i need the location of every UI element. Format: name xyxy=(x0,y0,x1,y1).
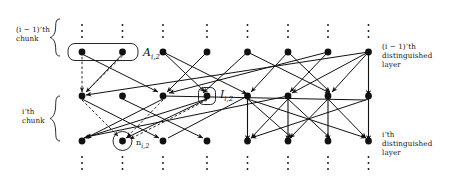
label-right-layer-lower-line2: distinguished xyxy=(382,139,432,148)
node-row-lower xyxy=(79,138,372,145)
graph-node xyxy=(160,93,167,100)
figure-canvas: (i − 1)’th chunk i’th chunk (i − 1)’th d… xyxy=(0,0,458,179)
vertical-dots-top xyxy=(81,24,369,38)
graph-node xyxy=(365,49,372,56)
label-annotation-n-sub: i,2 xyxy=(141,142,149,150)
graph-node xyxy=(244,49,251,56)
graph-node xyxy=(325,138,332,145)
node-row-upper xyxy=(79,49,372,56)
label-right-layer-lower-line1: i’th xyxy=(382,130,395,139)
graph-node xyxy=(79,49,86,56)
graph-node xyxy=(160,49,167,56)
graph-node xyxy=(285,93,292,100)
label-right-layer-lower-line3: layer xyxy=(382,148,401,157)
graph-node xyxy=(325,49,332,56)
label-annotation-a-sub: i,2 xyxy=(151,53,160,61)
graph-node xyxy=(119,138,126,145)
label-annotation-i-sub: i,2 xyxy=(224,95,233,103)
label-left-chunk-lower-line1: i’th xyxy=(22,107,35,116)
label-left-chunk-upper-line2: chunk xyxy=(16,34,39,43)
annotation-box-a xyxy=(68,44,138,61)
label-annotation-a-base: A xyxy=(143,46,151,59)
label-annotation-a: Ai,2 xyxy=(143,46,160,61)
graph-node xyxy=(79,93,86,100)
label-left-chunk-lower: i’th chunk xyxy=(22,107,62,125)
graph-node xyxy=(204,49,211,56)
label-annotation-i: Ii,2 xyxy=(220,88,233,103)
label-right-layer-upper-line3: layer xyxy=(382,60,401,69)
label-right-layer-upper-line2: distinguished xyxy=(382,51,432,60)
graph-node xyxy=(79,138,86,145)
layer-connector-lines xyxy=(248,52,369,141)
label-left-chunk-upper-line1: (i − 1)’th xyxy=(16,25,50,34)
graph-node xyxy=(244,138,251,145)
graph-node xyxy=(285,49,292,56)
label-right-layer-lower: i’th distinguished layer xyxy=(382,130,454,157)
graph-node xyxy=(119,49,126,56)
vertical-dots-bottom xyxy=(81,156,369,170)
label-annotation-n: ni,2 xyxy=(136,138,149,150)
graph-node xyxy=(204,138,211,145)
graph-node xyxy=(119,93,126,100)
graph-node xyxy=(204,93,211,100)
graph-node xyxy=(365,138,372,145)
graph-node xyxy=(285,138,292,145)
graph-node xyxy=(244,93,251,100)
graph-node xyxy=(365,93,372,100)
graph-node xyxy=(160,138,167,145)
label-right-layer-upper-line1: (i − 1)’th xyxy=(382,42,416,51)
label-right-layer-upper: (i − 1)’th distinguished layer xyxy=(382,42,454,69)
label-left-chunk-lower-line2: chunk xyxy=(22,116,45,125)
graph-node xyxy=(325,93,332,100)
label-left-chunk-upper: (i − 1)’th chunk xyxy=(16,25,60,43)
